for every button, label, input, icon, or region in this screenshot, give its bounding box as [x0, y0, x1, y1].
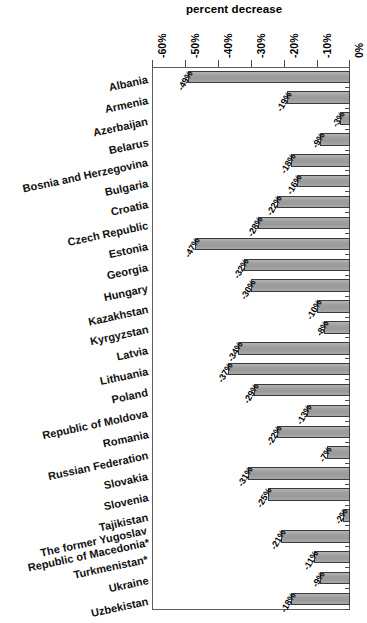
bar-row: -11%: [152, 547, 350, 568]
bar: [244, 259, 350, 272]
bar-row: -18%: [152, 151, 350, 172]
bar-row: -7%: [152, 443, 350, 464]
category-label: Lithuania: [99, 365, 149, 387]
bar-row: -9%: [152, 568, 350, 589]
bar: [188, 71, 350, 84]
category-label: Armenia: [104, 94, 150, 115]
bar-row: -19%: [152, 88, 350, 109]
category-label: Ukraine: [107, 574, 149, 594]
percent-decrease-bar-chart: percent decrease -49%-19%-3%-9%-18%-16%-…: [0, 0, 367, 623]
chart-title: percent decrease: [186, 3, 282, 15]
bar: [258, 217, 350, 230]
x-axis-tick: [218, 60, 219, 67]
bar-row: -22%: [152, 192, 350, 213]
bar-row: -34%: [152, 339, 350, 360]
x-axis-tick: [317, 60, 318, 67]
x-axis-tick-label: -60%: [156, 33, 168, 58]
bar: [238, 342, 350, 355]
x-axis-tick: [185, 60, 186, 67]
bar: [251, 279, 350, 292]
bar-row: -49%: [152, 67, 350, 88]
x-axis-tick: [152, 60, 153, 67]
bar-row: -47%: [152, 234, 350, 255]
category-label: Azerbaijan: [92, 115, 149, 139]
bar-row: -16%: [152, 171, 350, 192]
bar-row: -9%: [152, 130, 350, 151]
bar: [307, 405, 350, 418]
bar-value-label: -8%: [314, 319, 331, 338]
bar: [254, 384, 350, 397]
bar: [248, 467, 350, 480]
bar: [277, 196, 350, 209]
category-label: Hungary: [103, 282, 149, 303]
x-axis-tick-label: -30%: [255, 33, 267, 58]
bar-row: -22%: [152, 422, 350, 443]
x-axis-tick-label: -20%: [288, 33, 300, 58]
x-axis-tick: [251, 60, 252, 67]
category-label: Estonia: [108, 240, 149, 260]
x-axis-tick-label: -10%: [321, 33, 333, 58]
category-label: Latvia: [116, 344, 150, 363]
bar: [291, 593, 350, 606]
bar: [228, 363, 350, 376]
category-label: Uzbekistan: [90, 595, 149, 619]
bar-row: -3%: [152, 109, 350, 130]
bar: [281, 530, 350, 543]
bar-row: -29%: [152, 380, 350, 401]
x-axis-tick: [284, 60, 285, 67]
category-axis-labels: AlbaniaArmeniaAzerbaijanBelarusBosnia an…: [0, 67, 152, 610]
x-axis-tick-label: -50%: [189, 33, 201, 58]
bar: [287, 91, 350, 104]
bar-row: -21%: [152, 526, 350, 547]
x-axis-tick: [349, 60, 350, 67]
bar-row: -32%: [152, 255, 350, 276]
category-label: Slovenia: [102, 491, 149, 512]
bar-row: -25%: [152, 485, 350, 506]
bar-row: -8%: [152, 318, 350, 339]
category-label: Slovakia: [103, 470, 149, 491]
bar: [291, 154, 350, 167]
bar: [195, 238, 350, 251]
category-label: Bulgaria: [104, 177, 150, 198]
bar-row: -31%: [152, 464, 350, 485]
bar-series: -49%-19%-3%-9%-18%-16%-22%-28%-47%-32%-3…: [152, 67, 350, 610]
bar: [277, 426, 350, 439]
bar-row: -18%: [152, 589, 350, 610]
bar-row: -13%: [152, 401, 350, 422]
category-label: Belarus: [107, 136, 149, 156]
bar: [268, 488, 351, 501]
category-label: Poland: [111, 386, 149, 406]
category-label: Romania: [101, 428, 149, 450]
category-label: Georgia: [106, 261, 149, 282]
bar-row: -28%: [152, 213, 350, 234]
category-label: Albania: [108, 73, 149, 93]
x-axis-tick-label: 0%: [353, 43, 365, 58]
bar-row: -30%: [152, 276, 350, 297]
category-tick: [345, 609, 350, 610]
bar: [297, 175, 350, 188]
category-label: Croatia: [110, 198, 150, 218]
x-axis-tick-label: -40%: [222, 33, 234, 58]
bar-row: -2%: [152, 506, 350, 527]
bar-row: -37%: [152, 359, 350, 380]
bar-row: -10%: [152, 297, 350, 318]
